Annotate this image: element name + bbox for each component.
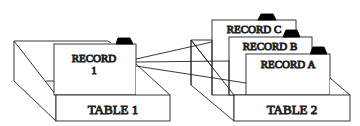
record-a-tab-icon	[310, 47, 327, 54]
record-b-tab-icon	[283, 30, 300, 37]
record-1-card[interactable]: RECORD 1	[54, 38, 136, 95]
diagram-canvas: RECORD 1 TABLE 1 RECORD C RECORD B RECOR…	[0, 0, 360, 126]
record-1-tab-icon	[116, 38, 133, 44]
record-a-label: RECORD A	[261, 58, 316, 70]
record-1-label-line2: 1	[91, 64, 97, 76]
record-a-card[interactable]: RECORD A	[246, 47, 330, 95]
record-1-label-line1: RECORD	[72, 52, 117, 64]
record-b-label: RECORD B	[243, 40, 298, 52]
table-1-label: TABLE 1	[88, 102, 139, 117]
record-c-label: RECORD C	[227, 23, 282, 35]
table-2-label: TABLE 2	[267, 102, 318, 117]
record-c-tab-icon	[258, 14, 276, 20]
